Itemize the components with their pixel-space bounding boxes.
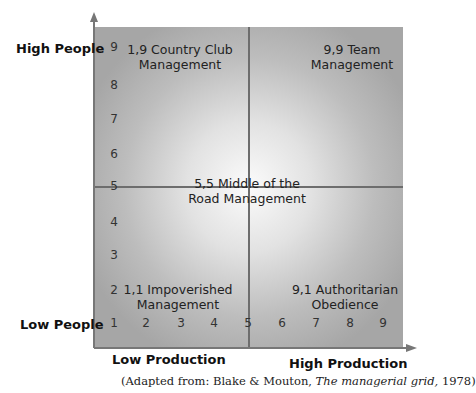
- y-tick: 8: [107, 78, 121, 92]
- x-tick: 3: [174, 316, 188, 330]
- y-tick: 9: [107, 40, 121, 54]
- y-tick: 4: [107, 215, 121, 229]
- quadrant-middle-road: 5,5 Middle of the Road Management: [182, 176, 312, 206]
- quadrant-impoverished: 1,1 Impoverished Management: [122, 282, 234, 312]
- quadrant-label-line: Management: [124, 57, 236, 72]
- y-axis-arrow-icon: [90, 12, 98, 22]
- source-caption: (Adapted from: Blake & Mouton, The manag…: [121, 374, 476, 388]
- quadrant-label-line: Road Management: [182, 191, 312, 206]
- x-tick: 4: [207, 316, 221, 330]
- quadrant-label-line: 1,1 Impoverished: [122, 282, 234, 297]
- low-people-label: Low People: [20, 317, 104, 332]
- x-tick: 6: [275, 316, 289, 330]
- quadrant-team: 9,9 Team Management: [310, 42, 394, 72]
- y-tick: 7: [107, 112, 121, 126]
- caption-suffix: 1978): [438, 374, 475, 388]
- quadrant-label-line: 9,1 Authoritarian: [290, 282, 400, 297]
- x-tick: 1: [107, 316, 121, 330]
- y-tick: 5: [107, 179, 121, 193]
- quadrant-label-line: 1,9 Country Club: [124, 42, 236, 57]
- low-production-label: Low Production: [112, 352, 226, 367]
- y-tick: 6: [107, 147, 121, 161]
- x-tick: 5: [241, 316, 255, 330]
- x-axis-arrow-icon: [406, 344, 417, 352]
- quadrant-label-line: 9,9 Team: [310, 42, 394, 57]
- high-people-label: High People: [16, 41, 104, 56]
- quadrant-authoritarian: 9,1 Authoritarian Obedience: [290, 282, 400, 312]
- x-tick: 7: [309, 316, 323, 330]
- x-tick: 8: [343, 316, 357, 330]
- x-tick: 2: [139, 316, 153, 330]
- caption-title: The managerial grid,: [316, 374, 439, 388]
- y-tick: 2: [107, 283, 121, 297]
- y-axis: [93, 18, 95, 348]
- x-axis: [94, 347, 410, 349]
- y-tick: 3: [107, 248, 121, 262]
- quadrant-label-line: Management: [310, 57, 394, 72]
- quadrant-country-club: 1,9 Country Club Management: [124, 42, 236, 72]
- quadrant-label-line: 5,5 Middle of the: [182, 176, 312, 191]
- x-tick: 9: [376, 316, 390, 330]
- quadrant-label-line: Obedience: [290, 297, 400, 312]
- quadrant-label-line: Management: [122, 297, 234, 312]
- caption-prefix: (Adapted from: Blake & Mouton,: [121, 374, 316, 388]
- high-production-label: High Production: [289, 356, 407, 371]
